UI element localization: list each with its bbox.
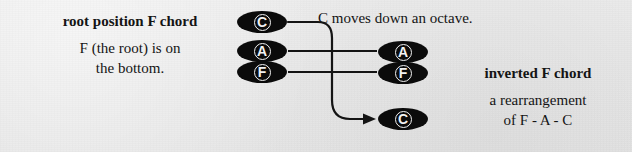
inverted-chord-text-block: inverted F chord a rearrangement of F - … xyxy=(452,64,624,130)
note-letter: A xyxy=(254,43,271,60)
note-letter: C xyxy=(395,111,412,128)
inverted-chord-line-1: a rearrangement xyxy=(452,91,624,111)
inverted-chord-line-2: of F - A - C xyxy=(452,111,624,131)
chord-inversion-figure: root position F chord F (the root) is on… xyxy=(0,0,632,152)
note-letter: C xyxy=(254,14,271,31)
note-letter: A xyxy=(395,44,412,61)
inverted-chord-heading: inverted F chord xyxy=(452,64,624,84)
note-left-c: C xyxy=(237,11,287,33)
note-letter: F xyxy=(395,65,412,82)
note-right-a: A xyxy=(378,41,428,63)
note-right-c: C xyxy=(378,108,428,130)
note-left-a: A xyxy=(237,40,287,62)
note-left-f: F xyxy=(237,61,287,83)
note-letter: F xyxy=(254,64,271,81)
c-arrowhead-icon xyxy=(363,114,376,125)
note-right-f: F xyxy=(378,62,428,84)
c-curved-arrow-path xyxy=(288,22,370,119)
